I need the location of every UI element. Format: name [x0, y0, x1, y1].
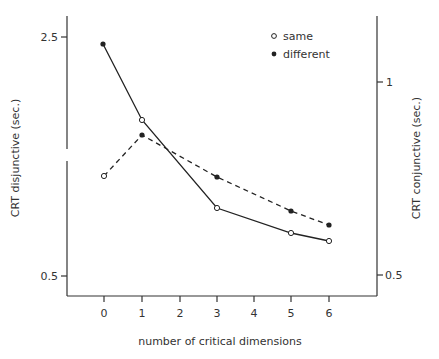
marker-filled	[288, 208, 293, 213]
marker-filled	[214, 174, 219, 179]
marker-open	[326, 238, 331, 243]
marker-filled	[139, 132, 144, 137]
right-tick-label-0.5: 0.5	[385, 269, 403, 282]
marker-filled	[100, 41, 105, 46]
legend-label-same: same	[283, 30, 313, 43]
x-tick-label-2: 2	[177, 307, 184, 320]
x-tick-label-1: 1	[139, 307, 146, 320]
dashed-line	[104, 135, 329, 225]
legend-label-different: different	[283, 48, 330, 61]
left-tick-label-2.5: 2.5	[41, 31, 59, 44]
x-axis-label: number of critical dimensions	[138, 335, 302, 348]
x-tick-label-4: 4	[251, 307, 258, 320]
series-dashed	[101, 132, 331, 227]
marker-open	[214, 205, 219, 210]
chart-canvas: 2.5 0.5 1 0.5 0 1 2 3 4 5 6 number of cr…	[0, 0, 439, 359]
right-tick-label-1: 1	[386, 76, 393, 89]
solid-line	[103, 44, 329, 241]
axes	[61, 16, 383, 302]
left-tick-label-0.5: 0.5	[41, 270, 59, 283]
x-tick-label-3: 3	[214, 307, 221, 320]
y-axis-label-left: CRT disjunctive (sec.)	[9, 99, 22, 217]
marker-open	[101, 173, 106, 178]
x-tick-label-6: 6	[326, 307, 333, 320]
marker-open	[139, 117, 144, 122]
y-axis-label-right: CRT conjunctive (sec.)	[410, 97, 423, 219]
marker-filled	[326, 222, 331, 227]
x-tick-label-0: 0	[101, 307, 108, 320]
x-tick-label-5: 5	[288, 307, 295, 320]
marker-open	[288, 230, 293, 235]
legend: same different	[272, 30, 331, 61]
legend-filled-circle-icon	[272, 52, 277, 57]
legend-open-circle-icon	[272, 34, 277, 39]
